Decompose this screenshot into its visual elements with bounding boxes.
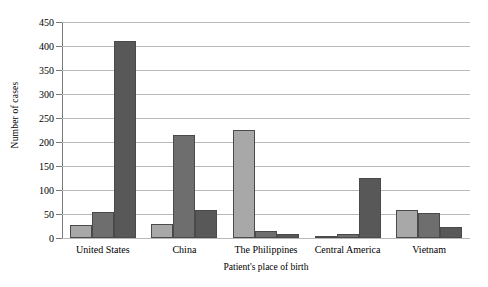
gridline xyxy=(62,238,470,239)
bar[interactable] xyxy=(195,210,217,238)
bar[interactable] xyxy=(255,231,277,238)
y-axis-tick-label: 200 xyxy=(14,137,54,148)
y-axis-tick-label: 100 xyxy=(14,185,54,196)
y-axis-tick-label: 50 xyxy=(14,209,54,220)
bar[interactable] xyxy=(315,236,337,238)
y-axis-tick-label: 450 xyxy=(14,17,54,28)
plot-area xyxy=(62,22,470,238)
y-axis-tick-label: 0 xyxy=(14,233,54,244)
bar[interactable] xyxy=(396,210,418,238)
x-axis-tick-label: Vietnam xyxy=(388,241,470,259)
bar-groups xyxy=(62,22,470,238)
bar[interactable] xyxy=(277,234,299,238)
y-axis-tick-label: 350 xyxy=(14,65,54,76)
bar-group xyxy=(62,22,144,238)
x-axis-tick-label: United States xyxy=(62,241,144,259)
bar-group xyxy=(144,22,226,238)
bar[interactable] xyxy=(92,212,114,238)
x-axis-title: Patient's place of birth xyxy=(62,262,470,272)
x-axis-tick-label: Central America xyxy=(307,241,389,259)
bar-group-bars xyxy=(315,22,381,238)
y-axis-tick-label: 250 xyxy=(14,113,54,124)
y-axis-tick-label: 300 xyxy=(14,89,54,100)
bar-group-bars xyxy=(70,22,136,238)
bar-group xyxy=(225,22,307,238)
bar-group-bars xyxy=(151,22,217,238)
bar[interactable] xyxy=(418,213,440,238)
bar-group xyxy=(388,22,470,238)
bar-group-bars xyxy=(233,22,299,238)
bar[interactable] xyxy=(114,41,136,238)
bar[interactable] xyxy=(440,227,462,238)
bar[interactable] xyxy=(359,178,381,238)
y-axis-tick-label: 150 xyxy=(14,161,54,172)
bar[interactable] xyxy=(233,130,255,238)
x-axis-tick-label: The Philippines xyxy=(225,241,307,259)
bar-group-bars xyxy=(396,22,462,238)
bar-chart: Number of cases 050100150200250300350400… xyxy=(0,0,488,287)
bar-group xyxy=(307,22,389,238)
bar[interactable] xyxy=(151,224,173,238)
bar[interactable] xyxy=(173,135,195,238)
x-axis-tick-labels: United StatesChinaThe PhilippinesCentral… xyxy=(62,241,470,259)
y-axis-tick-label: 400 xyxy=(14,41,54,52)
x-axis-tick-label: China xyxy=(144,241,226,259)
bar[interactable] xyxy=(70,225,92,238)
bar[interactable] xyxy=(337,234,359,238)
